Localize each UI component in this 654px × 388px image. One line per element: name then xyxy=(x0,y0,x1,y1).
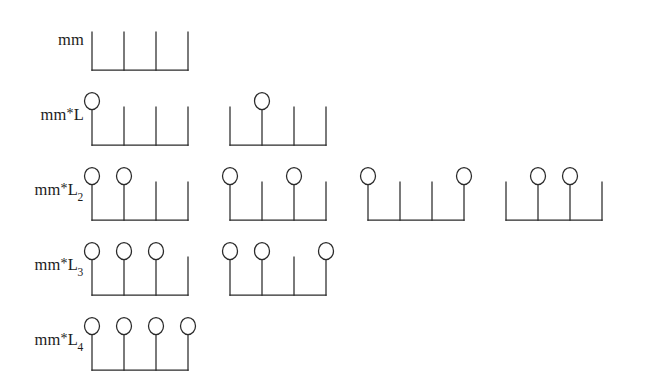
comb-node-circle-2 xyxy=(117,318,132,335)
comb-node-circle-2 xyxy=(117,168,132,185)
row-mm-L3: mm*L3 xyxy=(0,233,654,305)
comb-mmL3-2 xyxy=(226,233,354,305)
row-mm-comb-group xyxy=(88,8,654,80)
comb-node-circle-4 xyxy=(181,318,196,335)
label-subscript: 2 xyxy=(78,191,84,203)
comb-node-circle-1 xyxy=(85,243,100,260)
comb-node-circle-1 xyxy=(85,168,100,185)
comb-mmL2-1 xyxy=(88,158,216,230)
comb-graphic xyxy=(88,308,216,380)
comb-mmL3-1 xyxy=(88,233,216,305)
comb-diagram: mmmm*Lmm*L2mm*L3mm*L4 xyxy=(0,0,654,388)
comb-node-circle-2 xyxy=(255,243,270,260)
row-mm-L2: mm*L2 xyxy=(0,158,654,230)
comb-mmL4-1 xyxy=(88,308,216,380)
comb-node-circle-3 xyxy=(149,318,164,335)
comb-node-circle-1 xyxy=(223,243,238,260)
label-asterisk: * xyxy=(61,331,68,346)
comb-graphic xyxy=(226,158,354,230)
comb-node-circle-1 xyxy=(361,168,376,185)
label-asterisk: * xyxy=(61,256,68,271)
comb-graphic xyxy=(364,158,492,230)
label-base: mm xyxy=(58,30,84,49)
row-mm-L2-comb-group xyxy=(88,158,654,230)
comb-graphic xyxy=(226,233,354,305)
row-mm-L2-label: mm*L2 xyxy=(0,180,84,201)
label-subscript: 3 xyxy=(78,266,84,278)
label-subscript: 4 xyxy=(78,341,84,353)
row-mm-L4-label: mm*L4 xyxy=(0,330,84,351)
row-mm: mm xyxy=(0,8,654,80)
label-operand: L xyxy=(68,255,78,274)
comb-node-circle-2 xyxy=(255,93,270,110)
comb-mm-1 xyxy=(88,8,216,80)
label-operand: L xyxy=(68,330,78,349)
comb-node-circle-1 xyxy=(223,168,238,185)
comb-node-circle-1 xyxy=(85,93,100,110)
comb-mmL-1 xyxy=(88,83,216,155)
comb-node-circle-1 xyxy=(85,318,100,335)
row-mm-L4: mm*L4 xyxy=(0,308,654,380)
comb-mmL2-4 xyxy=(502,158,630,230)
comb-mmL2-3 xyxy=(364,158,492,230)
comb-graphic xyxy=(88,158,216,230)
label-base: mm xyxy=(34,180,60,199)
row-mm-L4-comb-group xyxy=(88,308,654,380)
comb-mmL-2 xyxy=(226,83,354,155)
comb-node-circle-4 xyxy=(319,243,334,260)
label-operand: L xyxy=(68,180,78,199)
comb-node-circle-4 xyxy=(457,168,472,185)
comb-node-circle-3 xyxy=(287,168,302,185)
comb-node-circle-2 xyxy=(531,168,546,185)
row-mm-L-label: mm*L xyxy=(0,105,84,125)
row-mm-label: mm xyxy=(0,30,84,50)
comb-graphic xyxy=(88,83,216,155)
label-base: mm xyxy=(34,255,60,274)
comb-graphic xyxy=(502,158,630,230)
comb-node-circle-2 xyxy=(117,243,132,260)
comb-graphic xyxy=(88,233,216,305)
row-mm-L3-label: mm*L3 xyxy=(0,255,84,276)
label-asterisk: * xyxy=(67,106,74,121)
comb-node-circle-3 xyxy=(149,243,164,260)
row-mm-L3-comb-group xyxy=(88,233,654,305)
label-base: mm xyxy=(40,105,66,124)
label-asterisk: * xyxy=(61,181,68,196)
comb-graphic xyxy=(226,83,354,155)
label-operand: L xyxy=(74,105,84,124)
comb-mmL2-2 xyxy=(226,158,354,230)
row-mm-L: mm*L xyxy=(0,83,654,155)
label-base: mm xyxy=(34,330,60,349)
row-mm-L-comb-group xyxy=(88,83,654,155)
comb-node-circle-3 xyxy=(563,168,578,185)
comb-graphic xyxy=(88,8,216,80)
